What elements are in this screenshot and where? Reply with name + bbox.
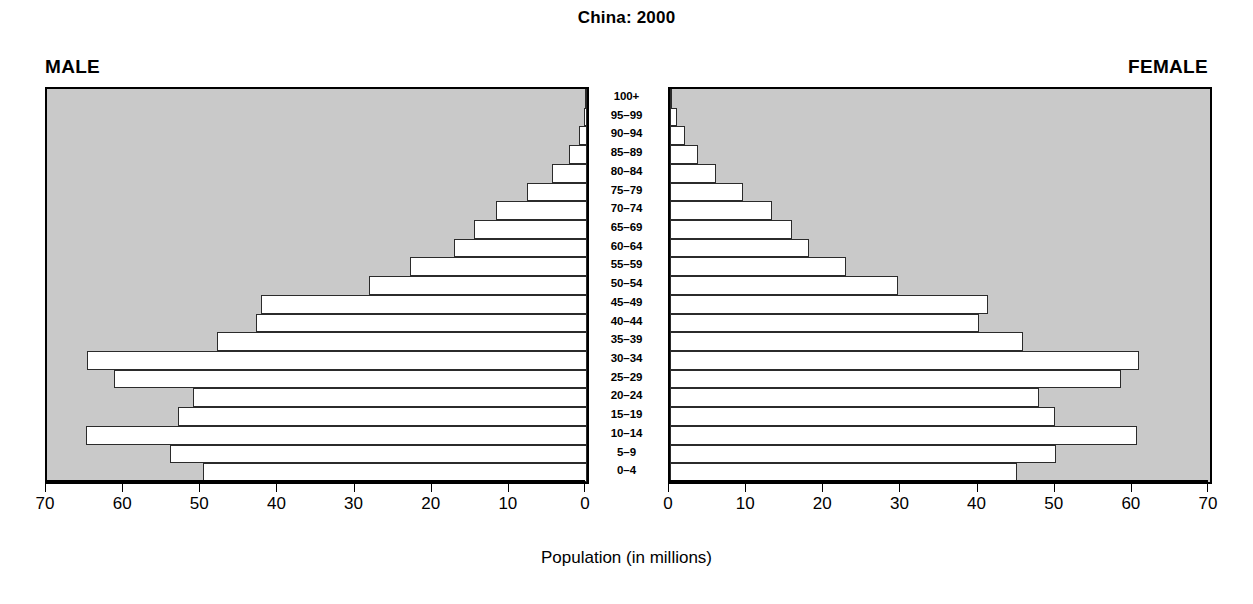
bar-band — [47, 145, 587, 164]
bar-band — [47, 126, 587, 145]
bar-band — [47, 332, 587, 351]
female-x-axis: 010203040506070 — [668, 480, 1208, 481]
female-axis-tick-label: 0 — [638, 494, 698, 514]
male-bar-2529 — [114, 370, 587, 389]
bar-band — [670, 407, 1210, 426]
male-axis-tick-label: 40 — [246, 494, 306, 514]
male-axis-tick — [276, 483, 277, 492]
bar-band — [670, 201, 1210, 220]
age-group-axis: 100+95–9990–9485–8980–8475–7970–7465–696… — [585, 87, 668, 480]
age-group-label: 80–84 — [585, 162, 668, 181]
male-axis-tick-label: 0 — [555, 494, 615, 514]
bar-band — [47, 276, 587, 295]
male-bar-5559 — [410, 257, 587, 276]
bar-band — [670, 295, 1210, 314]
bar-band — [47, 407, 587, 426]
bar-band — [670, 445, 1210, 464]
male-axis-tick-label: 60 — [92, 494, 152, 514]
age-group-label: 30–34 — [585, 349, 668, 368]
bar-band — [670, 164, 1210, 183]
male-bar-7579 — [527, 183, 587, 202]
female-bar-100+ — [670, 89, 672, 108]
x-axis-caption: Population (in millions) — [0, 548, 1253, 568]
bar-band — [47, 295, 587, 314]
female-axis-tick — [1207, 483, 1208, 492]
female-bar-9599 — [670, 108, 677, 127]
male-bar-2024 — [193, 388, 587, 407]
female-bar-7579 — [670, 183, 743, 202]
male-bar-4549 — [261, 295, 587, 314]
male-axis-line — [45, 480, 585, 483]
age-group-label: 25–29 — [585, 368, 668, 387]
age-group-label: 5–9 — [585, 443, 668, 462]
female-axis-line — [668, 480, 1208, 483]
bar-band — [670, 332, 1210, 351]
bar-band — [670, 257, 1210, 276]
male-bar-3539 — [217, 332, 587, 351]
chart-title: China: 2000 — [0, 8, 1253, 28]
female-bar-1014 — [670, 426, 1137, 445]
bar-band — [47, 370, 587, 389]
male-axis-tick — [431, 483, 432, 492]
female-bar-2024 — [670, 388, 1039, 407]
female-axis-tick-label: 20 — [792, 494, 852, 514]
male-x-axis: 706050403020100 — [45, 480, 585, 481]
female-bar-59 — [670, 445, 1056, 464]
bar-band — [670, 220, 1210, 239]
female-bar-5559 — [670, 257, 846, 276]
bar-band — [670, 89, 1210, 108]
male-axis-tick — [508, 483, 509, 492]
male-bar-5054 — [369, 276, 587, 295]
female-bar-1519 — [670, 407, 1055, 426]
age-group-label: 85–89 — [585, 143, 668, 162]
bar-band — [47, 89, 587, 108]
male-axis-tick-label: 10 — [478, 494, 538, 514]
male-panel-label: MALE — [45, 56, 100, 78]
male-axis-tick — [199, 483, 200, 492]
male-axis-tick-label: 30 — [324, 494, 384, 514]
bar-band — [670, 108, 1210, 127]
female-axis-tick — [977, 483, 978, 492]
bar-band — [47, 388, 587, 407]
age-group-label: 75–79 — [585, 181, 668, 200]
age-group-label: 45–49 — [585, 293, 668, 312]
bar-band — [47, 183, 587, 202]
age-group-label: 15–19 — [585, 405, 668, 424]
male-axis-tick — [584, 483, 585, 492]
female-bar-4549 — [670, 295, 988, 314]
female-bar-7074 — [670, 201, 772, 220]
bar-band — [670, 388, 1210, 407]
female-axis-tick — [745, 483, 746, 492]
bar-band — [47, 108, 587, 127]
female-bar-8084 — [670, 164, 716, 183]
age-group-label: 10–14 — [585, 424, 668, 443]
male-bar-4044 — [256, 314, 587, 333]
bar-band — [47, 426, 587, 445]
female-axis-tick — [1054, 483, 1055, 492]
female-bar-9094 — [670, 126, 685, 145]
male-bar-6569 — [474, 220, 587, 239]
female-bar-4044 — [670, 314, 979, 333]
male-axis-tick-label: 70 — [15, 494, 75, 514]
female-axis-tick — [1131, 483, 1132, 492]
bar-band — [47, 239, 587, 258]
female-axis-tick-label: 30 — [869, 494, 929, 514]
female-axis-tick — [899, 483, 900, 492]
bar-band — [670, 314, 1210, 333]
female-bar-3539 — [670, 332, 1023, 351]
male-axis-tick-label: 20 — [401, 494, 461, 514]
male-bar-1519 — [178, 407, 587, 426]
female-axis-tick-label: 40 — [947, 494, 1007, 514]
bar-band — [47, 257, 587, 276]
age-group-label: 50–54 — [585, 274, 668, 293]
age-group-label: 95–99 — [585, 106, 668, 125]
bar-band — [47, 445, 587, 464]
female-bar-8589 — [670, 145, 698, 164]
age-group-label: 90–94 — [585, 124, 668, 143]
bar-band — [47, 220, 587, 239]
bar-band — [670, 426, 1210, 445]
bar-band — [47, 164, 587, 183]
bar-band — [670, 370, 1210, 389]
female-axis-tick-label: 50 — [1024, 494, 1084, 514]
age-group-label: 0–4 — [585, 461, 668, 480]
